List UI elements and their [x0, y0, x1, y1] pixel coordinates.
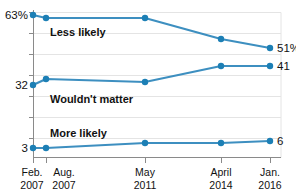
line-chart: 63% 32 3 51% 41 6 Less likely Wouldn't m…: [0, 0, 296, 194]
x-label-3-top: April: [210, 166, 231, 178]
x-label-1-bottom: 2007: [52, 179, 76, 191]
data-point[interactable]: [267, 45, 273, 51]
end-label-wouldnt-matter: 41: [277, 60, 290, 72]
data-point[interactable]: [267, 63, 273, 69]
data-point[interactable]: [30, 82, 36, 88]
x-label-3-bottom: 2014: [209, 179, 233, 191]
end-label-more-likely: 6: [277, 135, 283, 147]
data-point[interactable]: [30, 145, 36, 151]
data-point[interactable]: [218, 140, 224, 146]
data-point[interactable]: [142, 15, 148, 21]
start-label-wouldnt-matter: 32: [15, 79, 28, 91]
end-label-less-likely: 51%: [277, 42, 296, 54]
start-label-more-likely: 3: [22, 142, 28, 154]
data-point[interactable]: [267, 138, 273, 144]
x-label-4-top: Jan.: [260, 166, 280, 178]
x-label-0-top: Feb.: [21, 166, 42, 178]
data-point[interactable]: [142, 140, 148, 146]
x-label-4-bottom: 2016: [258, 179, 282, 191]
data-point[interactable]: [43, 15, 49, 21]
x-label-2-bottom: 2011: [134, 179, 157, 191]
x-label-2-top: May: [135, 166, 156, 178]
series-label-less-likely: Less likely: [50, 26, 107, 38]
x-label-0-bottom: 2007: [20, 179, 44, 191]
data-point[interactable]: [30, 12, 36, 18]
x-label-1-top: Aug.: [53, 166, 75, 178]
data-point[interactable]: [43, 76, 49, 82]
data-point[interactable]: [218, 63, 224, 69]
series-label-wouldnt-matter: Wouldn't matter: [50, 93, 134, 105]
series-label-more-likely: More likely: [50, 127, 108, 139]
start-label-less-likely: 63%: [5, 9, 28, 21]
data-point[interactable]: [142, 79, 148, 85]
chart-container: 63% 32 3 51% 41 6 Less likely Wouldn't m…: [0, 0, 296, 194]
data-point[interactable]: [43, 145, 49, 151]
data-point[interactable]: [218, 36, 224, 42]
